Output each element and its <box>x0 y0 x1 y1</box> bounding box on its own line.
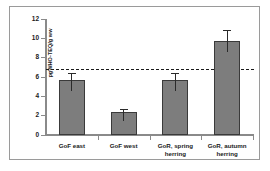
y-axis-tick-label: 2 <box>35 110 39 119</box>
y-axis-tick-mark <box>41 57 46 58</box>
y-axis-line <box>45 19 47 136</box>
y-axis-tick-mark <box>41 135 46 136</box>
y-axis-tick-mark <box>41 115 46 116</box>
y-axis-tick-mark <box>41 77 46 78</box>
y-axis-tick: 4 <box>41 96 46 97</box>
y-axis-tick-mark <box>41 38 46 39</box>
y-axis-tick: 12 <box>41 19 46 20</box>
error-bar-cap-top <box>68 73 76 74</box>
x-axis-category-label: GoF west <box>98 142 150 150</box>
y-axis-tick: 2 <box>41 115 46 116</box>
y-axis-tick-label: 6 <box>35 72 39 81</box>
error-bar-line <box>227 30 228 52</box>
y-axis-tick: 0 <box>41 135 46 136</box>
y-axis-tick-label: 4 <box>35 91 39 100</box>
error-bar-line <box>123 109 124 122</box>
x-axis-tick-mark <box>98 136 99 140</box>
x-axis-category-label: GoR, autumn herring <box>201 142 253 157</box>
y-axis-tick: 10 <box>41 38 46 39</box>
y-axis-title: pgWHO-TEQ/g ww <box>47 23 53 83</box>
error-bar-cap-top <box>171 73 179 74</box>
y-axis-tick-mark <box>41 96 46 97</box>
bar <box>214 41 240 135</box>
error-bar-cap-top <box>223 30 231 31</box>
x-axis-tick-mark <box>201 136 202 140</box>
chart-figure: pgWHO-TEQ/g ww 024681012 GoF eastGoF wes… <box>0 0 270 171</box>
y-axis-tick: 8 <box>41 57 46 58</box>
y-axis-tick: 6 <box>41 77 46 78</box>
error-bar-line <box>71 73 72 90</box>
x-axis-tick-mark <box>150 136 151 140</box>
y-axis-tick-mark <box>41 19 46 20</box>
y-axis-tick-label: 0 <box>35 130 39 139</box>
x-axis-category-label: GoF east <box>46 142 98 150</box>
error-bar-line <box>175 73 176 90</box>
error-bar-cap-top <box>120 109 128 110</box>
y-axis-tick-label: 10 <box>32 33 39 42</box>
x-axis-tick-mark <box>253 136 254 140</box>
y-axis-tick-label: 12 <box>32 14 39 23</box>
y-axis-tick-label: 8 <box>35 52 39 61</box>
x-axis-category-label: GoR, spring herring <box>150 142 202 157</box>
